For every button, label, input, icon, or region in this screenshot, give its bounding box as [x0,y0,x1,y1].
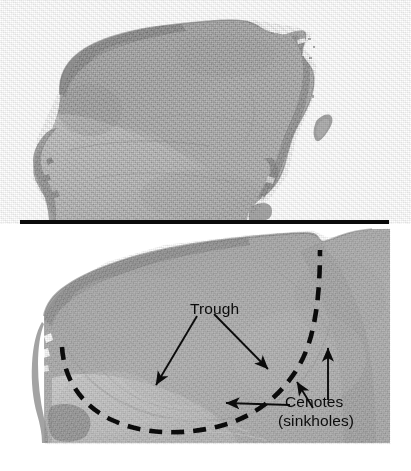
figure-container: Trough Cenotes (sinkholes) [0,0,411,471]
landmass-top [0,0,411,224]
bottom-panel-svg [0,228,411,471]
top-panel-svg [0,0,411,224]
panel-bottom-annotated-closeup [0,228,411,471]
panel-separator-bar [20,220,389,224]
panel-top-relief-image [0,0,411,224]
offshore-island [314,115,333,142]
label-trough: Trough [190,300,239,318]
label-cenotes-sublabel: (sinkholes) [278,412,354,430]
label-cenotes: Cenotes [285,393,343,411]
